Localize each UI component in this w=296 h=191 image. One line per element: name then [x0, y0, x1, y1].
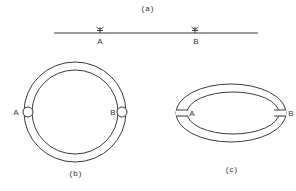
figure: (a) A B A B (b) A: [0, 0, 296, 191]
junction-b-icon: [274, 110, 286, 116]
panel-b-point-b-label: B: [110, 108, 115, 117]
panel-b: A B (b): [13, 62, 127, 178]
junction-a-icon: [176, 110, 188, 116]
panel-a-point-a-label: A: [97, 37, 103, 46]
junction-a-icon: [23, 107, 33, 117]
panel-b-point-a-label: A: [13, 108, 19, 117]
panel-a-point-b-label: B: [193, 37, 198, 46]
junction-a-icon: [97, 27, 104, 33]
panel-c-point-b-label: B: [288, 109, 293, 118]
inner-ring: [32, 70, 118, 154]
panel-a-caption: (a): [142, 4, 155, 13]
panel-a: (a) A B: [54, 4, 258, 46]
panel-c: A B (c): [176, 84, 294, 174]
panel-b-caption: (b): [70, 169, 83, 178]
junction-b-icon: [192, 27, 199, 33]
inner-ellipse: [187, 92, 279, 134]
junction-b-icon: [117, 107, 127, 117]
panel-c-point-a-label: A: [189, 109, 195, 118]
panel-c-caption: (c): [226, 165, 238, 174]
